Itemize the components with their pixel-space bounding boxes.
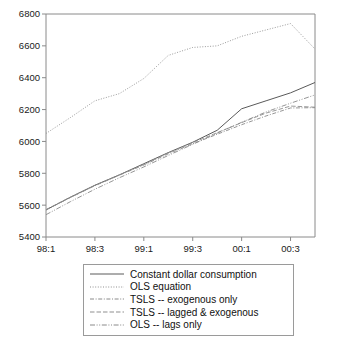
line-chart-svg: 5400560058006000620064006600680098:198:3… [0,0,338,258]
y-tick-label: 6400 [19,72,40,83]
legend-item: TSLS -- lagged & exogenous [89,306,288,319]
y-tick-label: 6600 [19,40,40,51]
plot-frame [46,14,315,237]
legend-line-sample-dashed [89,307,125,317]
legend-item: OLS equation [89,281,288,294]
series-line-tsls-lagged-exogenous [46,106,315,210]
x-tick-label: 00:3 [281,243,300,254]
y-tick-label: 6200 [19,104,40,115]
legend-line-sample-dash-dot-dot [89,320,125,330]
x-tick-label: 00:1 [232,243,251,254]
plot-area: 5400560058006000620064006600680098:198:3… [0,0,338,258]
legend-line-sample-solid [89,269,125,279]
legend-label-tsls-exogenous-only: TSLS -- exogenous only [130,294,237,305]
x-tick-label: 99:1 [135,243,154,254]
legend-item: Constant dollar consumption [89,268,288,281]
legend-item: TSLS -- exogenous only [89,293,288,306]
y-tick-label: 5600 [19,200,40,211]
series-line-tsls-exogenous-only [46,108,315,210]
y-tick-label: 5400 [19,231,40,242]
legend-line-sample-dotted [89,282,125,292]
legend-label-tsls-lagged-and-exogenous: TSLS -- lagged & exogenous [130,307,258,318]
legend-label-ols-equation: OLS equation [130,281,191,292]
legend-line-sample-dash-dot [89,294,125,304]
chart-figure: 5400560058006000620064006600680098:198:3… [0,0,338,352]
legend-item: OLS -- lags only [89,318,288,331]
y-tick-label: 6000 [19,136,40,147]
x-tick-label: 98:1 [37,243,56,254]
y-tick-label: 5800 [19,168,40,179]
x-tick-label: 99:3 [183,243,202,254]
legend-label-ols-lags-only: OLS -- lags only [130,319,202,330]
x-tick-label: 98:3 [86,243,105,254]
series-line-ols-equation [46,24,315,134]
series-line-constant-dollar-consumption [46,82,315,209]
chart-legend: Constant dollar consumption OLS equation… [83,264,294,336]
legend-label-constant-dollar-consumption: Constant dollar consumption [130,269,257,280]
y-tick-label: 6800 [19,8,40,19]
